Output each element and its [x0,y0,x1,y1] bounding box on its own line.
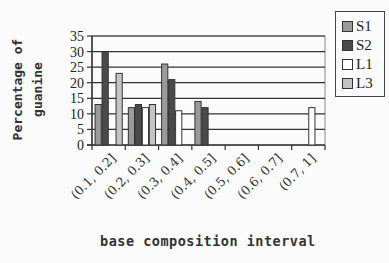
bar-s1 [95,105,101,145]
legend-swatch-icon [342,21,353,32]
bar-l3 [149,105,155,145]
y-tick-label: 15 [70,91,84,106]
bar-s2 [169,80,175,145]
bar-s1 [195,101,201,145]
y-axis-label-line2: guanine [30,35,45,145]
legend-swatch-icon [342,40,353,51]
bar-s1 [128,108,134,145]
bar-l1 [176,111,182,145]
bar-s1 [162,64,168,145]
y-axis-label-line1: Percentage of [10,35,25,145]
y-tick-label: 5 [77,122,84,137]
y-tick-label: 30 [70,45,84,60]
legend-item-s1: S1 [342,17,372,35]
legend-swatch-icon [342,59,353,70]
y-tick-label: 0 [77,138,84,153]
bar-l3 [116,73,122,145]
bar-chart: 05101520253035(0.1, 0.2](0.2, 0.3](0.3, … [0,0,389,263]
legend-swatch-icon [342,78,353,89]
legend-item-s2: S2 [342,36,372,54]
x-axis-label: base composition interval [100,233,316,249]
bar-s2 [202,108,208,145]
y-tick-label: 35 [70,29,84,44]
legend-item-l1: L1 [342,55,373,73]
bar-s2 [135,105,141,145]
bar-l1 [142,108,148,145]
bar-s2 [102,52,108,145]
bar-l1 [309,108,315,145]
y-tick-label: 25 [70,60,84,75]
x-tick-label: (0.7, 1] [276,151,319,194]
y-tick-label: 20 [70,76,84,91]
y-tick-label: 10 [70,107,84,122]
legend: S1 S2 L1 L3 [335,11,385,97]
legend-item-l3: L3 [342,74,373,92]
